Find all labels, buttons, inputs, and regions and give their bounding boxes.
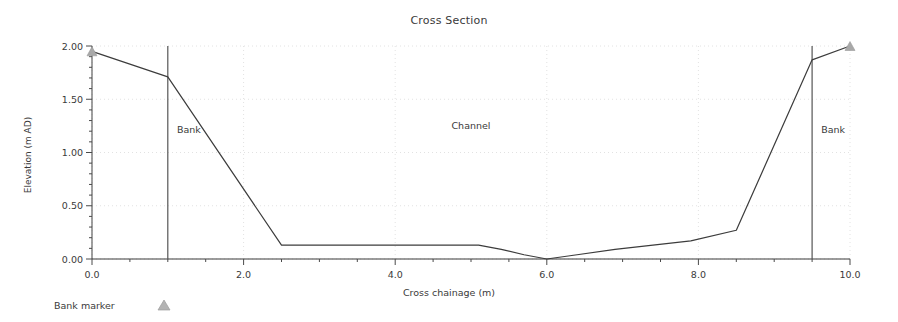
svg-text:10.0: 10.0 xyxy=(839,269,860,280)
annotation-bank-left: Bank xyxy=(177,124,201,135)
annotation-channel: Channel xyxy=(451,120,490,131)
svg-text:1.00: 1.00 xyxy=(62,147,83,158)
bank-marker-icon xyxy=(157,299,171,311)
svg-text:1.50: 1.50 xyxy=(62,94,83,105)
svg-text:8.0: 8.0 xyxy=(691,269,706,280)
plot-annotations: BankChannelBank xyxy=(177,120,846,135)
annotation-bank-right: Bank xyxy=(821,124,845,135)
svg-text:4.0: 4.0 xyxy=(388,269,403,280)
axis-ticks xyxy=(86,46,850,265)
axis-tick-labels: 0.000.501.001.502.000.02.04.06.08.010.0 xyxy=(62,41,861,281)
svg-text:2.0: 2.0 xyxy=(236,269,251,280)
legend-label-bank-marker: Bank marker xyxy=(54,300,115,311)
svg-text:6.0: 6.0 xyxy=(539,269,554,280)
svg-text:0.50: 0.50 xyxy=(62,200,83,211)
svg-text:0.00: 0.00 xyxy=(62,254,83,265)
cross-section-chart: Cross Section Elevation (m AD) Cross cha… xyxy=(0,0,898,322)
plot-area: 0.000.501.001.502.000.02.04.06.08.010.0 … xyxy=(0,0,898,322)
svg-text:0.0: 0.0 xyxy=(84,269,99,280)
svg-text:2.00: 2.00 xyxy=(62,41,83,52)
legend: Bank marker xyxy=(54,299,171,311)
bank-marker-triangles xyxy=(87,42,855,56)
gridlines xyxy=(92,46,850,259)
